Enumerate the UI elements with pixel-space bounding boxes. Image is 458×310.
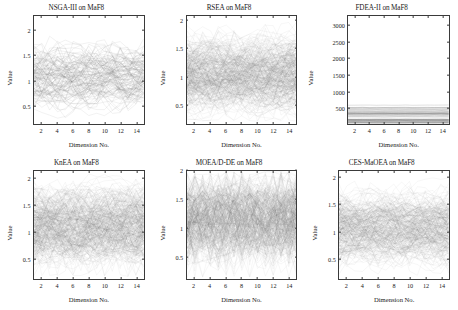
y-tick-label: 2 <box>180 167 183 174</box>
axes-frame <box>186 170 298 280</box>
x-tick-label: 4 <box>55 127 58 134</box>
x-axis-label: Dimension No. <box>347 141 450 148</box>
x-tick-label: 8 <box>393 282 396 289</box>
panel-ces-maoea: CES-MaOEA on MaF8 Value 0.511.5224681012… <box>305 155 458 310</box>
x-tick-label: 8 <box>240 282 243 289</box>
x-tick-label: 8 <box>240 127 243 134</box>
plot-area: 0.511.522468101214 <box>33 15 145 125</box>
x-tick-label: 14 <box>286 127 292 134</box>
x-tick-label: 6 <box>71 282 74 289</box>
x-tick-label: 4 <box>208 282 211 289</box>
parallel-coordinates-lines <box>34 16 144 124</box>
x-axis-label: Dimension No. <box>186 296 298 303</box>
x-tick-label: 10 <box>410 127 416 134</box>
y-axis-label: Value <box>159 225 166 240</box>
y-tick-label: 0.5 <box>328 256 336 263</box>
y-tick-label: 1 <box>27 77 30 84</box>
axes-frame <box>33 170 145 280</box>
axes-frame <box>186 15 298 125</box>
x-tick-label: 6 <box>377 282 380 289</box>
axes-frame <box>33 15 145 125</box>
parallel-coordinates-lines <box>348 16 449 124</box>
parallel-coordinates-lines <box>339 171 449 279</box>
x-tick-label: 4 <box>368 127 371 134</box>
y-tick-label: 1 <box>180 73 183 80</box>
y-tick-label: 1.5 <box>23 52 31 59</box>
y-tick-label: 2 <box>333 173 336 180</box>
panel-title: CES-MaOEA on MaF8 <box>305 159 458 167</box>
y-tick-label: 2 <box>27 175 30 182</box>
x-tick-label: 14 <box>134 127 140 134</box>
panel-title: MOEA/D-DE on MaF8 <box>153 159 306 167</box>
x-tick-label: 14 <box>134 282 140 289</box>
x-tick-label: 8 <box>87 127 90 134</box>
x-axis-label: Dimension No. <box>186 141 298 148</box>
plot-area: 500100015002000250030002468101214 <box>347 15 450 125</box>
plot-area: 0.511.522468101214 <box>186 170 298 280</box>
y-tick-label: 1.5 <box>175 195 183 202</box>
figure-grid: NSGA-III on MaF8 Value 0.511.52246810121… <box>0 0 458 310</box>
y-tick-label: 1 <box>27 228 30 235</box>
axes-frame <box>338 170 450 280</box>
x-tick-label: 10 <box>102 127 108 134</box>
x-axis-label: Dimension No. <box>33 141 145 148</box>
x-tick-label: 2 <box>192 127 195 134</box>
y-tick-label: 2500 <box>332 38 344 45</box>
x-tick-label: 12 <box>423 282 429 289</box>
parallel-coordinates-lines <box>34 171 144 279</box>
panel-fdea2: FDEA-II on MaF8 Value 500100015002000250… <box>305 0 458 155</box>
x-tick-label: 8 <box>87 282 90 289</box>
y-tick-label: 0.5 <box>23 255 31 262</box>
panel-knea: KnEA on MaF8 Value 0.511.522468101214 Di… <box>0 155 153 310</box>
x-tick-label: 4 <box>361 282 364 289</box>
x-axis-label: Dimension No. <box>33 296 145 303</box>
x-tick-label: 2 <box>39 127 42 134</box>
y-tick-label: 1.5 <box>23 201 31 208</box>
y-axis-label: Value <box>159 70 166 85</box>
y-tick-label: 500 <box>336 105 345 112</box>
x-tick-label: 2 <box>353 127 356 134</box>
parallel-coordinates-lines <box>187 16 297 124</box>
axes-frame <box>347 15 450 125</box>
y-tick-label: 2 <box>180 16 183 23</box>
y-tick-label: 1 <box>333 228 336 235</box>
x-tick-label: 14 <box>439 282 445 289</box>
x-tick-label: 8 <box>397 127 400 134</box>
x-tick-label: 12 <box>118 127 124 134</box>
panel-title: NSGA-III on MaF8 <box>0 4 153 12</box>
x-tick-label: 10 <box>254 282 260 289</box>
x-tick-label: 4 <box>208 127 211 134</box>
y-axis-label: Value <box>311 225 318 240</box>
x-tick-label: 12 <box>425 127 431 134</box>
x-tick-label: 14 <box>286 282 292 289</box>
y-tick-label: 2000 <box>332 55 344 62</box>
y-tick-label: 1500 <box>332 72 344 79</box>
x-tick-label: 2 <box>345 282 348 289</box>
x-tick-label: 2 <box>192 282 195 289</box>
panel-rsea: RSEA on MaF8 Value 0.511.522468101214 Di… <box>153 0 306 155</box>
x-axis-label: Dimension No. <box>338 296 450 303</box>
x-tick-label: 10 <box>102 282 108 289</box>
x-tick-label: 4 <box>55 282 58 289</box>
y-tick-label: 0.5 <box>175 253 183 260</box>
panel-nsga3: NSGA-III on MaF8 Value 0.511.52246810121… <box>0 0 153 155</box>
plot-area: 0.511.522468101214 <box>186 15 298 125</box>
y-axis-label: Value <box>6 70 13 85</box>
plot-area: 0.511.522468101214 <box>338 170 450 280</box>
panel-title: FDEA-II on MaF8 <box>305 4 458 12</box>
plot-area: 0.511.522468101214 <box>33 170 145 280</box>
x-tick-label: 12 <box>270 282 276 289</box>
x-tick-label: 14 <box>440 127 446 134</box>
panel-moead-de: MOEA/D-DE on MaF8 Value 0.511.5224681012… <box>153 155 306 310</box>
panel-title: RSEA on MaF8 <box>153 4 306 12</box>
panel-title: KnEA on MaF8 <box>0 159 153 167</box>
x-tick-label: 2 <box>39 282 42 289</box>
y-tick-label: 3000 <box>332 22 344 29</box>
y-tick-label: 0.5 <box>23 102 31 109</box>
x-tick-label: 12 <box>118 282 124 289</box>
x-tick-label: 6 <box>224 127 227 134</box>
x-tick-label: 10 <box>254 127 260 134</box>
parallel-coordinates-lines <box>187 171 297 279</box>
x-tick-label: 12 <box>270 127 276 134</box>
y-axis-label: Value <box>307 70 314 85</box>
